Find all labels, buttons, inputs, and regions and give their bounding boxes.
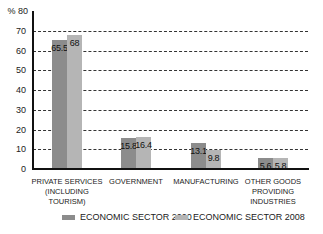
y-tick-label: 50: [0, 65, 26, 75]
bar-value-label: 9.8: [204, 153, 223, 163]
legend-swatch-2000: [62, 215, 75, 220]
y-tick-label: 40: [0, 85, 26, 95]
x-axis: [32, 168, 309, 170]
legend-swatch-2008: [175, 215, 188, 220]
category-label: OTHER GOODSPROVIDINGINDUSTRIES: [233, 177, 313, 207]
legend-label-2008: ECONOMIC SECTOR 2008: [193, 212, 305, 222]
category-label: PRIVATE SERVICES(INCLUDINGTOURISM): [27, 177, 107, 207]
y-tick-label: % 80: [0, 6, 28, 16]
legend-item-2000: ECONOMIC SECTOR 2000: [62, 212, 192, 222]
y-axis: [32, 11, 34, 170]
legend-item-2008: ECONOMIC SECTOR 2008: [175, 212, 305, 222]
gridline: [33, 31, 308, 32]
y-tick-label: 30: [0, 105, 26, 115]
bar: [67, 35, 82, 169]
bar-value-label: 68: [65, 38, 84, 48]
y-tick-label: 60: [0, 46, 26, 56]
category-label: GOVERNMENT: [96, 177, 176, 187]
y-tick-label: 0: [0, 164, 26, 174]
bar: [52, 40, 67, 169]
y-tick-label: 70: [0, 26, 26, 36]
y-tick-label: 10: [0, 144, 26, 154]
y-tick-label: 20: [0, 125, 26, 135]
bar-value-label: 16.4: [134, 140, 153, 150]
